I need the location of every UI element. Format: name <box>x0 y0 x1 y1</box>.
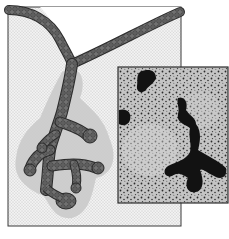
figure-svg <box>0 0 229 239</box>
micrograph-inset <box>118 67 228 203</box>
figure <box>0 0 229 239</box>
